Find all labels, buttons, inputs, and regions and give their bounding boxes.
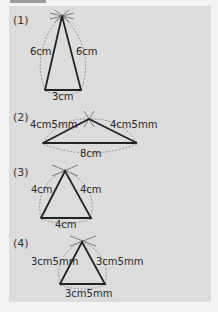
problem-3: (3) 4cm 4cm 4cm — [13, 165, 102, 230]
problem-label: (2) — [13, 111, 29, 124]
side-left-length: 6cm — [30, 46, 52, 57]
side-right-length: 6cm — [76, 46, 98, 57]
problem-2: (2) 4cm5mm 4cm5mm 8cm — [13, 111, 157, 159]
side-right-length: 3cm5mm — [96, 256, 143, 267]
base-length: 4cm — [55, 219, 77, 230]
side-right-length: 4cm5mm — [110, 119, 157, 130]
base-length: 3cm5mm — [65, 288, 112, 299]
problem-label: (4) — [13, 237, 29, 250]
problem-label: (3) — [13, 166, 29, 179]
side-left-length: 4cm5mm — [30, 119, 77, 130]
problem-1: (1) 6cm 6cm 3cm — [13, 10, 98, 102]
triangle-constructions: (1) 6cm 6cm 3cm (2) 4cm5mm 4cm5mm 8cm (3… — [0, 0, 218, 312]
base-length: 8cm — [80, 148, 102, 159]
problem-label: (1) — [13, 14, 29, 27]
side-left-length: 4cm — [31, 184, 53, 195]
side-right-length: 4cm — [80, 184, 102, 195]
side-left-length: 3cm5mm — [31, 256, 78, 267]
base-length: 3cm — [52, 91, 74, 102]
problem-4: (4) 3cm5mm 3cm5mm 3cm5mm — [13, 236, 143, 299]
